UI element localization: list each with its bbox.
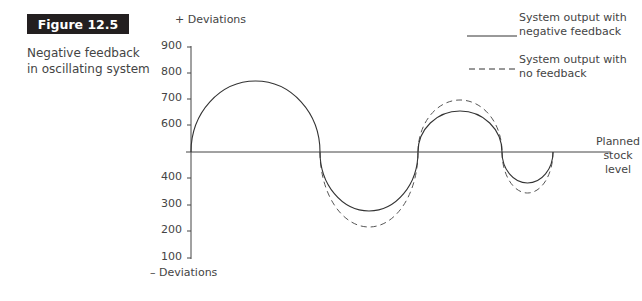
chart-plot <box>0 0 642 301</box>
series-no-feedback <box>320 152 418 227</box>
series-negative-feedback <box>191 81 320 152</box>
